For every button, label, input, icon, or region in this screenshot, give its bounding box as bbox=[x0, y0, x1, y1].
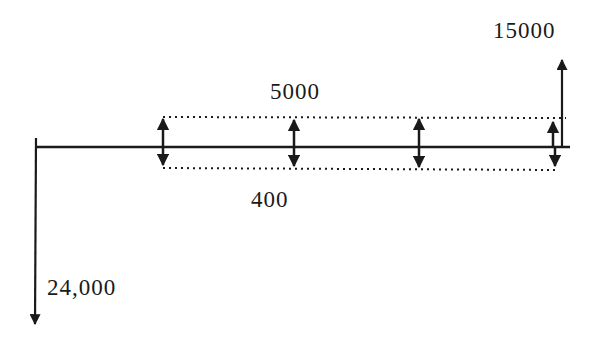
inflow-dotted-line bbox=[163, 117, 566, 118]
initial-outflow-arrow-icon bbox=[35, 138, 36, 324]
final-inflow-label: 15000 bbox=[493, 19, 556, 42]
initial-outflow-label: 24,000 bbox=[47, 276, 116, 299]
recurring-inflow-label: 5000 bbox=[270, 80, 320, 103]
recurring-outflow-label: 400 bbox=[251, 188, 289, 211]
outflow-dotted-line bbox=[163, 168, 558, 170]
